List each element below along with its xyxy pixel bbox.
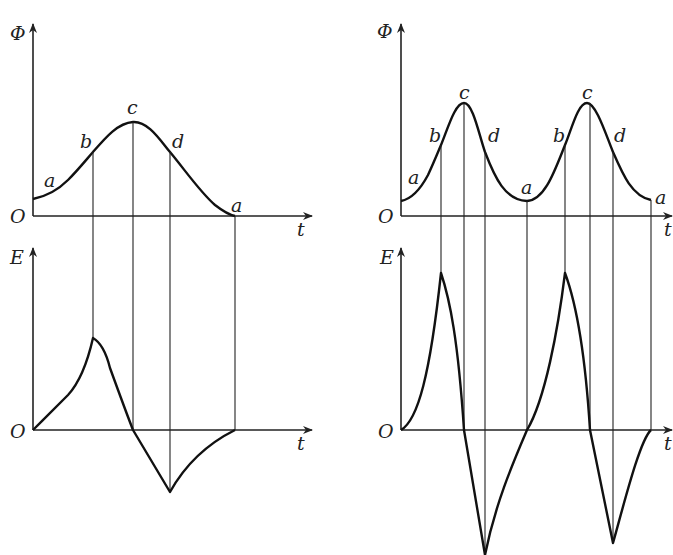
left-emf-curve: [33, 338, 235, 492]
left-flux-plot: Φ O t a b c d a: [10, 22, 312, 240]
left-guide-lines: [93, 122, 235, 492]
right-emf-origin-label: O: [378, 420, 394, 442]
right-point-label-a3: a: [655, 186, 666, 208]
left-emf-t-label: t: [297, 432, 305, 454]
right-point-label-c1: c: [459, 81, 470, 103]
right-point-label-b1: b: [429, 124, 441, 146]
right-point-label-d1: d: [488, 124, 500, 146]
right-emf-y-label: E: [379, 246, 394, 268]
right-flux-origin-label: O: [378, 205, 394, 227]
right-point-label-d2: d: [614, 124, 626, 146]
left-emf-y-label: E: [9, 246, 24, 268]
flux-emf-diagram: Φ O t a b c d a E O t Φ O t a b c d a b …: [0, 0, 673, 555]
right-emf-plot: E O t: [378, 246, 672, 555]
right-point-label-a2: a: [521, 176, 532, 198]
left-flux-y-label: Φ: [10, 22, 26, 44]
left-emf-plot: E O t: [9, 246, 312, 492]
left-flux-t-label: t: [297, 218, 305, 240]
left-point-label-c: c: [127, 96, 138, 118]
left-flux-curve: [33, 122, 235, 216]
right-emf-t-label: t: [664, 432, 672, 454]
left-point-label-d: d: [172, 130, 184, 152]
left-point-label-a1: a: [44, 169, 55, 191]
right-flux-t-label: t: [664, 218, 672, 240]
right-point-label-b2: b: [553, 124, 565, 146]
right-flux-y-label: Φ: [377, 20, 393, 42]
right-point-label-a1: a: [408, 166, 419, 188]
left-point-label-a2: a: [231, 194, 242, 216]
left-point-label-b: b: [80, 130, 92, 152]
right-point-label-c2: c: [582, 81, 593, 103]
left-flux-origin-label: O: [10, 205, 26, 227]
left-emf-origin-label: O: [10, 420, 26, 442]
right-flux-plot: Φ O t a b c d a b c d a: [377, 20, 672, 240]
